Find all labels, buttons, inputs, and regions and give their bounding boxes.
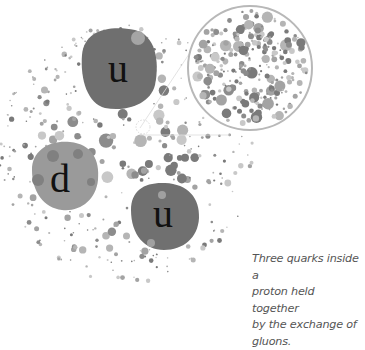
quark-label-d: d xyxy=(50,156,70,201)
quark-up-1: u xyxy=(82,28,157,109)
magnifier-inset xyxy=(188,6,312,130)
quark-down: d xyxy=(32,142,98,210)
caption-line-2: proton held together xyxy=(252,284,364,317)
caption-line-4: gluons. xyxy=(252,334,364,350)
quark-label-u1: u xyxy=(108,46,128,91)
quark-up-2: u xyxy=(131,183,199,250)
caption-line-1: Three quarks inside a xyxy=(252,251,364,284)
quark-label-u2: u xyxy=(153,191,173,236)
caption-line-3: by the exchange of xyxy=(252,317,364,334)
caption: Three quarks inside a proton held togeth… xyxy=(252,251,364,350)
